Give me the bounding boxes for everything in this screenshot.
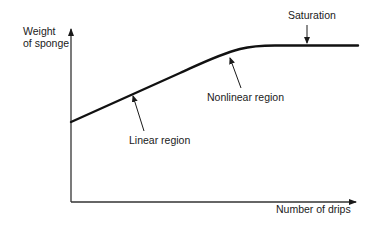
y-axis-label-line-1: Weight bbox=[23, 25, 71, 37]
nonlinear-region-label: Nonlinear region bbox=[207, 91, 284, 103]
nonlinear-arrow bbox=[230, 58, 241, 88]
y-axis-label-line-2: of sponge bbox=[23, 37, 71, 49]
linear-region-label: Linear region bbox=[129, 134, 190, 146]
weight-curve bbox=[71, 46, 358, 123]
y-axis-label: Weight of sponge bbox=[23, 25, 71, 49]
linear-arrow bbox=[133, 96, 144, 131]
saturation-label: Saturation bbox=[288, 9, 336, 21]
x-axis-label: Number of drips bbox=[276, 203, 351, 215]
